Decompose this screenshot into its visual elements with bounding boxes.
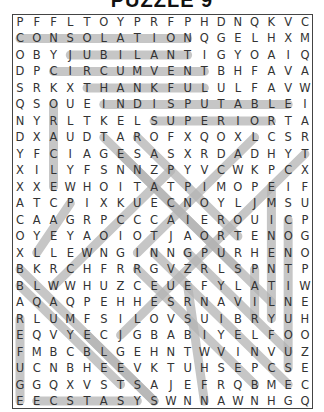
grid-letter[interactable]: N — [129, 162, 145, 178]
grid-letter[interactable]: A — [46, 129, 62, 145]
grid-letter[interactable]: N — [46, 360, 62, 376]
grid-letter[interactable]: M — [263, 195, 279, 211]
grid-letter[interactable]: P — [196, 245, 212, 261]
grid-letter[interactable]: I — [280, 47, 296, 63]
grid-letter[interactable]: V — [146, 63, 162, 79]
grid-letter[interactable]: C — [146, 212, 162, 228]
grid-letter[interactable]: X — [29, 179, 45, 195]
grid-letter[interactable]: P — [180, 14, 196, 30]
grid-letter[interactable]: O — [146, 129, 162, 145]
grid-letter[interactable]: J — [62, 47, 78, 63]
grid-letter[interactable]: E — [230, 360, 246, 376]
grid-letter[interactable]: H — [196, 14, 212, 30]
grid-letter[interactable]: P — [247, 261, 263, 277]
grid-letter[interactable]: I — [196, 327, 212, 343]
grid-letter[interactable]: G — [96, 146, 112, 162]
grid-letter[interactable]: B — [180, 327, 196, 343]
grid-letter[interactable]: A — [113, 80, 129, 96]
grid-letter[interactable]: T — [79, 393, 95, 409]
grid-letter[interactable]: X — [96, 195, 112, 211]
grid-letter[interactable]: D — [129, 96, 145, 112]
grid-letter[interactable]: E — [79, 327, 95, 343]
grid-letter[interactable]: G — [129, 327, 145, 343]
grid-letter[interactable]: O — [280, 327, 296, 343]
grid-letter[interactable]: C — [96, 327, 112, 343]
grid-letter[interactable]: T — [180, 344, 196, 360]
grid-letter[interactable]: V — [280, 14, 296, 30]
grid-letter[interactable]: G — [213, 47, 229, 63]
grid-letter[interactable]: L — [247, 30, 263, 46]
grid-letter[interactable]: B — [46, 344, 62, 360]
grid-letter[interactable]: J — [247, 195, 263, 211]
grid-letter[interactable]: V — [230, 294, 246, 310]
grid-letter[interactable]: E — [163, 63, 179, 79]
grid-letter[interactable]: Y — [29, 113, 45, 129]
grid-letter[interactable]: Y — [29, 228, 45, 244]
grid-letter[interactable]: O — [163, 30, 179, 46]
grid-letter[interactable]: N — [180, 195, 196, 211]
grid-letter[interactable]: F — [163, 80, 179, 96]
grid-letter[interactable]: P — [29, 63, 45, 79]
grid-letter[interactable]: B — [146, 327, 162, 343]
grid-letter[interactable]: N — [146, 245, 162, 261]
grid-letter[interactable]: K — [263, 14, 279, 30]
grid-letter[interactable]: T — [280, 261, 296, 277]
grid-letter[interactable]: A — [46, 294, 62, 310]
grid-letter[interactable]: T — [113, 377, 129, 393]
grid-letter[interactable]: R — [213, 377, 229, 393]
grid-letter[interactable]: E — [113, 360, 129, 376]
grid-letter[interactable]: N — [280, 245, 296, 261]
grid-letter[interactable]: A — [213, 294, 229, 310]
grid-letter[interactable]: H — [146, 344, 162, 360]
grid-letter[interactable]: N — [196, 393, 212, 409]
grid-letter[interactable]: X — [12, 162, 28, 178]
grid-letter[interactable]: I — [113, 179, 129, 195]
grid-letter[interactable]: T — [129, 179, 145, 195]
grid-letter[interactable]: M — [129, 63, 145, 79]
grid-letter[interactable]: R — [129, 261, 145, 277]
grid-letter[interactable]: F — [29, 14, 45, 30]
grid-letter[interactable]: S — [62, 30, 78, 46]
grid-letter[interactable]: I — [230, 344, 246, 360]
grid-letter[interactable]: A — [146, 179, 162, 195]
grid-letter[interactable]: Q — [29, 327, 45, 343]
grid-letter[interactable]: U — [62, 96, 78, 112]
grid-letter[interactable]: E — [29, 393, 45, 409]
grid-letter[interactable]: L — [46, 162, 62, 178]
grid-letter[interactable]: O — [230, 179, 246, 195]
grid-letter[interactable]: S — [129, 146, 145, 162]
grid-letter[interactable]: S — [163, 96, 179, 112]
grid-letter[interactable]: X — [180, 129, 196, 145]
grid-letter[interactable]: U — [113, 63, 129, 79]
grid-letter[interactable]: S — [280, 360, 296, 376]
grid-letter[interactable]: C — [62, 261, 78, 277]
grid-letter[interactable]: A — [263, 80, 279, 96]
grid-letter[interactable]: V — [163, 261, 179, 277]
grid-letter[interactable]: L — [62, 14, 78, 30]
grid-letter[interactable]: V — [46, 327, 62, 343]
grid-letter[interactable]: K — [146, 360, 162, 376]
grid-letter[interactable]: Y — [129, 393, 145, 409]
grid-letter[interactable]: N — [163, 344, 179, 360]
grid-letter[interactable]: L — [213, 261, 229, 277]
grid-letter[interactable]: T — [196, 63, 212, 79]
grid-letter[interactable]: I — [113, 311, 129, 327]
grid-letter[interactable]: E — [230, 327, 246, 343]
grid-letter[interactable]: S — [12, 80, 28, 96]
grid-letter[interactable]: W — [79, 245, 95, 261]
grid-letter[interactable]: P — [247, 179, 263, 195]
grid-letter[interactable]: W — [196, 344, 212, 360]
grid-letter[interactable]: H — [297, 311, 313, 327]
grid-letter[interactable]: Y — [46, 47, 62, 63]
grid-letter[interactable]: B — [79, 344, 95, 360]
grid-letter[interactable]: D — [247, 146, 263, 162]
grid-letter[interactable]: S — [96, 377, 112, 393]
grid-letter[interactable]: T — [129, 30, 145, 46]
grid-letter[interactable]: X — [180, 146, 196, 162]
grid-letter[interactable]: U — [196, 311, 212, 327]
grid-letter[interactable]: Q — [29, 294, 45, 310]
grid-letter[interactable]: C — [263, 129, 279, 145]
grid-letter[interactable]: R — [79, 212, 95, 228]
grid-letter[interactable]: U — [129, 195, 145, 211]
grid-letter[interactable]: Q — [12, 96, 28, 112]
